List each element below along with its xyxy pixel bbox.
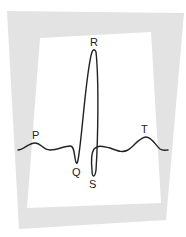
ecg-diagram: P Q R S T [0,0,186,237]
label-s: S [89,178,96,190]
label-q: Q [72,166,81,178]
label-r: R [90,36,98,48]
label-t: T [141,123,148,135]
label-p: P [32,129,39,141]
